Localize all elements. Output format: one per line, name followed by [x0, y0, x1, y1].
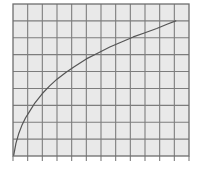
plot-svg	[0, 0, 198, 170]
axis-tick-marks	[13, 156, 189, 161]
chart-figure	[0, 0, 198, 170]
